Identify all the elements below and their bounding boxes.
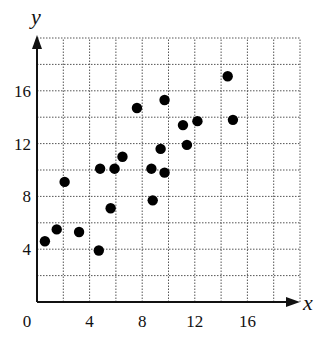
data-point [105,203,115,213]
tick-labels: 0481216481216 [14,82,256,331]
data-point [148,195,158,205]
x-tick-label: 8 [138,312,147,331]
data-point [94,245,104,255]
y-tick-label: 4 [23,240,32,259]
data-point [182,140,192,150]
data-point [109,163,119,173]
x-tick-label: 4 [85,312,94,331]
y-axis-label: y [29,4,41,29]
data-point [159,167,169,177]
y-tick-label: 16 [14,82,31,101]
data-point [52,224,62,234]
data-point [74,227,84,237]
data-points [40,71,238,256]
data-point [222,71,232,81]
x-axis-label: x [302,290,313,315]
data-point [192,116,202,126]
y-tick-label: 12 [14,135,31,154]
scatter-plot: 0481216481216 x y [0,0,321,345]
data-point [146,163,156,173]
data-point [117,152,127,162]
data-point [40,236,50,246]
data-point [228,115,238,125]
x-tick-label: 0 [23,312,32,331]
x-tick-label: 16 [239,312,256,331]
y-tick-label: 8 [23,187,32,206]
data-point [155,144,165,154]
data-point [132,103,142,113]
y-axis-arrow-icon [32,35,42,49]
x-axis-arrow-icon [286,297,300,307]
data-point [95,163,105,173]
data-point [178,120,188,130]
data-point [59,177,69,187]
data-point [159,95,169,105]
x-tick-label: 12 [186,312,203,331]
